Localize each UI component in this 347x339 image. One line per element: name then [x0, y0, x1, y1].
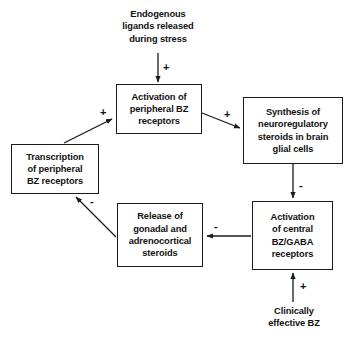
edge-sign-peripheral-to-synthesis: + — [224, 109, 230, 120]
node-central-line1: Activation — [271, 211, 315, 223]
node-transcription-peripheral-bz: Transcription of peripheral BZ receptors — [11, 144, 99, 194]
edge-sign-transcription-to-peripheral: + — [100, 107, 106, 118]
edge-sign-clinical-to-central: + — [300, 281, 306, 292]
node-synthesis-line2: neuroregulatory — [258, 118, 329, 130]
node-transcription-line3: BZ receptors — [26, 175, 84, 187]
node-endogenous-ligands: Endogenous ligands released during stres… — [105, 8, 211, 45]
node-central-line4: receptors — [271, 248, 315, 260]
node-release-line3: adrenocortical — [129, 235, 192, 247]
arrow-peripheral-to-synthesis — [202, 113, 240, 128]
node-release-line4: steroids — [129, 247, 192, 259]
node-synthesis-line3: steroids in brain — [258, 131, 329, 143]
node-activation-peripheral-bz-line1: Activation of — [130, 91, 189, 103]
diagram-canvas: Endogenous ligands released during stres… — [0, 0, 347, 339]
node-release-gonadal-adrenocortical: Release of gonadal and adrenocortical st… — [117, 203, 203, 267]
node-activation-peripheral-bz: Activation of peripheral BZ receptors — [116, 84, 202, 134]
edge-sign-ligands-to-peripheral: + — [163, 62, 169, 73]
node-release-line1: Release of — [129, 210, 192, 222]
node-transcription-line1: Transcription — [26, 151, 84, 163]
node-activation-central-bz-gaba: Activation of central BZ/GABA receptors — [252, 201, 333, 270]
edge-sign-synthesis-to-central: - — [299, 180, 303, 191]
node-activation-peripheral-bz-line2: peripheral BZ — [130, 103, 189, 115]
node-release-line2: gonadal and — [129, 223, 192, 235]
node-synthesis-neuroregulatory-steroids: Synthesis of neuroregulatory steroids in… — [243, 97, 343, 164]
node-clinical-line2: effective BZ — [248, 317, 340, 329]
node-transcription-line2: of peripheral — [26, 163, 84, 175]
node-central-line2: of central — [271, 223, 315, 235]
edge-sign-release-to-transcription: - — [90, 196, 94, 207]
node-activation-peripheral-bz-line3: receptors — [130, 115, 189, 127]
node-synthesis-line4: glial cells — [258, 143, 329, 155]
node-endogenous-ligands-line1: Endogenous — [105, 8, 211, 20]
node-endogenous-ligands-line2: ligands released — [105, 20, 211, 32]
node-endogenous-ligands-line3: during stress — [105, 33, 211, 45]
node-synthesis-line1: Synthesis of — [258, 106, 329, 118]
node-central-line3: BZ/GABA — [271, 236, 315, 248]
node-clinical-line1: Clinically — [248, 305, 340, 317]
arrow-release-to-transcription — [76, 197, 116, 237]
arrow-transcription-to-peripheral — [64, 119, 112, 143]
edge-sign-central-to-release: - — [214, 221, 218, 232]
node-clinically-effective-bz: Clinically effective BZ — [248, 305, 340, 330]
